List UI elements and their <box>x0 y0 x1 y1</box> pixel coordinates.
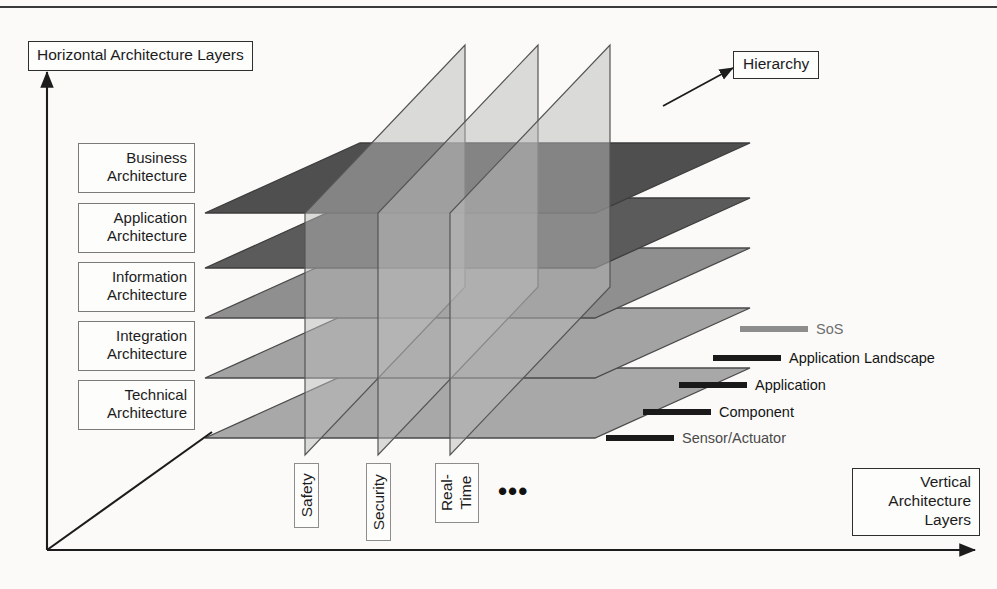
diagram-canvas: Horizontal Architecture Layers Vertical … <box>0 0 997 589</box>
hierarchy-bar-application <box>679 382 747 388</box>
layer-label-technical: Technical Architecture <box>78 380 195 430</box>
layer-label-application: Application Architecture <box>78 203 195 253</box>
axis-depth <box>47 432 212 550</box>
hierarchy-label-sensor-actuator: Sensor/Actuator <box>682 430 786 446</box>
hierarchy-item-sensor-actuator: Sensor/Actuator <box>606 430 786 446</box>
hierarchy-axis-title: Hierarchy <box>733 51 819 79</box>
hierarchy-bar-sos <box>740 326 808 332</box>
vertical-layer-label-safety-text: Safety <box>297 474 316 518</box>
horizontal-axis-title: Horizontal Architecture Layers <box>28 41 253 71</box>
hierarchy-item-component: Component <box>643 404 794 420</box>
hierarchy-label-application-landscape: Application Landscape <box>789 350 935 366</box>
hierarchy-item-application-landscape: Application Landscape <box>713 350 935 366</box>
layer-label-integration: Integration Architecture <box>78 321 195 371</box>
hierarchy-bar-sensor-actuator <box>606 435 674 441</box>
vertical-layer-label-security-text: Security <box>369 474 388 530</box>
hierarchy-label-application: Application <box>755 377 826 393</box>
layer-label-business: Business Architecture <box>78 143 195 193</box>
hierarchy-label-component: Component <box>719 404 794 420</box>
vertical-axis-title: Vertical Architecture Layers <box>852 468 980 536</box>
vertical-layer-label-realtime: Real- Time <box>435 463 479 523</box>
hierarchy-arrow <box>663 68 733 106</box>
hierarchy-bar-application-landscape <box>713 355 781 361</box>
vertical-layer-label-realtime-text: Real- Time <box>438 474 475 511</box>
vertical-layers-ellipsis: ••• <box>498 478 528 504</box>
hierarchy-item-sos: SoS <box>740 321 843 337</box>
hierarchy-bar-component <box>643 409 711 415</box>
vertical-layer-label-security: Security <box>366 463 391 541</box>
layer-label-information: Information Architecture <box>78 262 195 312</box>
vertical-layer-label-safety: Safety <box>294 463 319 528</box>
hierarchy-label-sos: SoS <box>816 321 843 337</box>
hierarchy-item-application: Application <box>679 377 826 393</box>
